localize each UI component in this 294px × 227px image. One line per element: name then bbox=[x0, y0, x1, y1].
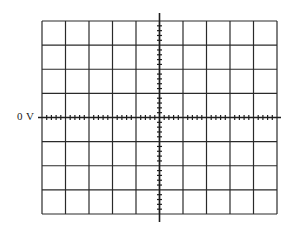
zero-volt-label: 0 V bbox=[17, 110, 35, 123]
oscilloscope-graticule bbox=[0, 0, 294, 227]
